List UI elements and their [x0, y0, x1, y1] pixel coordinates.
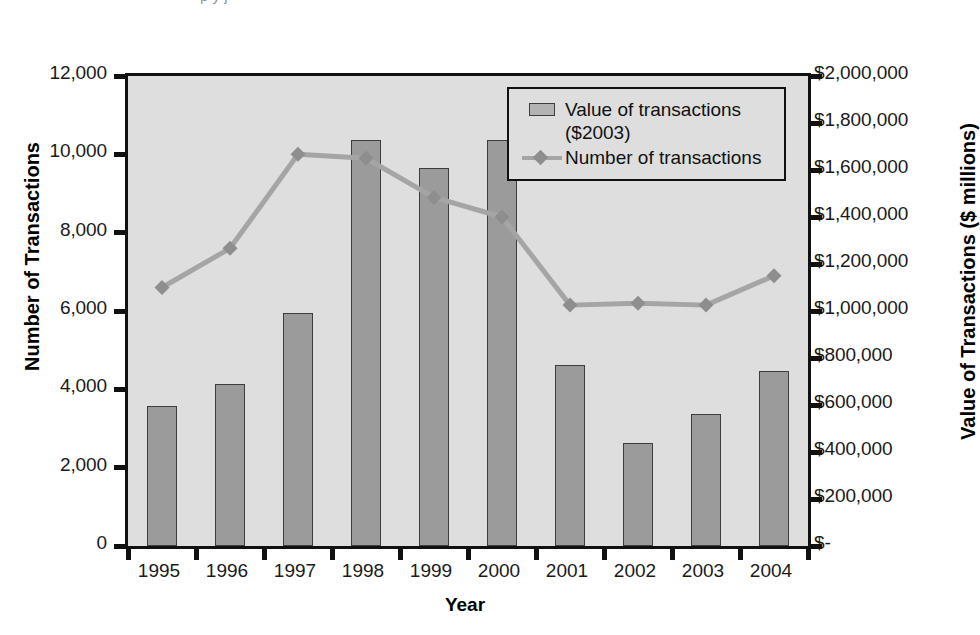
- x-tick-label-1997: 1997: [274, 560, 316, 582]
- right-tick-label-6: $800,000: [814, 344, 892, 366]
- x-tick-label-2000: 2000: [478, 560, 520, 582]
- right-tick-label-9: $200,000: [814, 485, 892, 507]
- left-tick-label-4: 4,000: [60, 375, 107, 397]
- legend-line-swatch-wrap: [519, 145, 565, 170]
- legend-entry-line: Number of transactions: [519, 145, 774, 170]
- right-tick-label-3: $1,400,000: [814, 203, 908, 225]
- x-tick-label-1999: 1999: [410, 560, 452, 582]
- x-tick-label-1998: 1998: [342, 560, 384, 582]
- x-tick-label-2004: 2004: [750, 560, 792, 582]
- left-axis-title: Number of Transactions: [21, 92, 44, 422]
- right-tick-label-5: $1,000,000: [814, 297, 908, 319]
- legend-entry-bar: Value of transactions: [519, 97, 774, 122]
- line-marker-2003: [699, 298, 714, 313]
- right-tick-4: [811, 262, 822, 267]
- left-tick-label-3: 6,000: [60, 297, 107, 319]
- right-tick-label-8: $400,000: [814, 438, 892, 460]
- x-tick-10: [806, 549, 811, 560]
- right-tick-label-2: $1,600,000: [814, 156, 908, 178]
- left-tick-4000: [114, 387, 125, 392]
- right-tick-7: [811, 403, 822, 408]
- x-tick-3: [330, 549, 335, 560]
- legend-bar-label: Value of transactions: [565, 97, 741, 122]
- right-tick-0: [811, 74, 822, 79]
- right-tick-3: [811, 215, 822, 220]
- x-tick-label-1996: 1996: [206, 560, 248, 582]
- line-swatch-icon: [522, 151, 562, 165]
- line-marker-2004: [767, 268, 782, 283]
- left-tick-label-6: 0: [97, 532, 107, 554]
- left-tick-label-0: 12,000: [49, 62, 107, 84]
- x-tick-7: [602, 549, 607, 560]
- diamond-marker-icon: [533, 149, 549, 165]
- left-tick-2000: [114, 465, 125, 470]
- x-tick-9: [738, 549, 743, 560]
- x-tick-6: [534, 549, 539, 560]
- x-tick-8: [670, 549, 675, 560]
- legend-bar-swatch-wrap: [519, 97, 565, 122]
- x-tick-label-1995: 1995: [138, 560, 180, 582]
- right-tick-6: [811, 356, 822, 361]
- left-axis-tick-labels: 12,00010,0008,0006,0004,0002,0000: [0, 73, 107, 543]
- x-axis-title: Year: [125, 594, 805, 616]
- right-tick-5: [811, 309, 822, 314]
- right-tick-label-0: $2,000,000: [814, 62, 908, 84]
- plot-inner: Value of transactions ($2003) Number of …: [128, 76, 808, 546]
- left-tick-6000: [114, 309, 125, 314]
- plot-area: Value of transactions ($2003) Number of …: [125, 73, 811, 549]
- left-tick-8000: [114, 230, 125, 235]
- x-tick-1: [194, 549, 199, 560]
- right-tick-8: [811, 450, 822, 455]
- x-tick-0: [126, 549, 131, 560]
- left-tick-10000: [114, 152, 125, 157]
- left-tick-label-2: 8,000: [60, 219, 107, 241]
- left-tick-12000: [114, 74, 125, 79]
- right-axis-tick-labels: $2,000,000$1,800,000$1,600,000$1,400,000…: [814, 73, 934, 543]
- left-tick-label-5: 2,000: [60, 454, 107, 476]
- x-tick-2: [262, 549, 267, 560]
- top-fragment-text: p y j: [200, 0, 228, 4]
- right-tick-10: [811, 544, 822, 549]
- chart-legend: Value of transactions ($2003) Number of …: [507, 87, 786, 181]
- bar-swatch-icon: [529, 103, 555, 116]
- x-tick-label-2003: 2003: [682, 560, 724, 582]
- x-tick-5: [466, 549, 471, 560]
- page-top-text-fragment: p y j: [0, 0, 972, 12]
- right-tick-1: [811, 121, 822, 126]
- left-tick-0: [114, 544, 125, 549]
- right-tick-2: [811, 168, 822, 173]
- line-marker-2002: [631, 296, 646, 311]
- right-tick-label-1: $1,800,000: [814, 109, 908, 131]
- right-tick-9: [811, 497, 822, 502]
- right-tick-label-7: $600,000: [814, 391, 892, 413]
- legend-line-label: Number of transactions: [565, 145, 761, 170]
- x-axis-tick-labels: 1995199619971998199920002001200220032004: [125, 560, 805, 588]
- right-tick-label-4: $1,200,000: [814, 250, 908, 272]
- right-axis-title: Value of Transactions ($ millions): [957, 72, 980, 492]
- x-tick-4: [398, 549, 403, 560]
- left-tick-label-1: 10,000: [49, 140, 107, 162]
- x-tick-label-2001: 2001: [546, 560, 588, 582]
- legend-bar-label-line2: ($2003): [565, 120, 774, 145]
- x-tick-label-2002: 2002: [614, 560, 656, 582]
